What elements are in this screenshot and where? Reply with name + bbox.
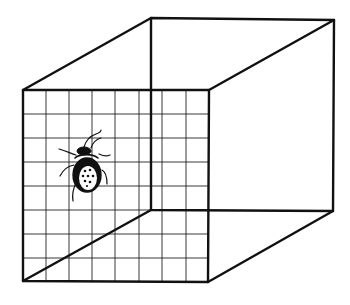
- edge-bottom-left: [23, 210, 151, 281]
- front-face-grid: [23, 90, 209, 282]
- bug-icon: [59, 130, 110, 201]
- back-face: [151, 18, 334, 211]
- edge-top-right: [209, 20, 334, 90]
- cube-edges: [23, 18, 334, 282]
- edge-top-left: [23, 18, 151, 90]
- cube-illustration: [0, 0, 350, 305]
- edge-bottom-right: [208, 211, 333, 282]
